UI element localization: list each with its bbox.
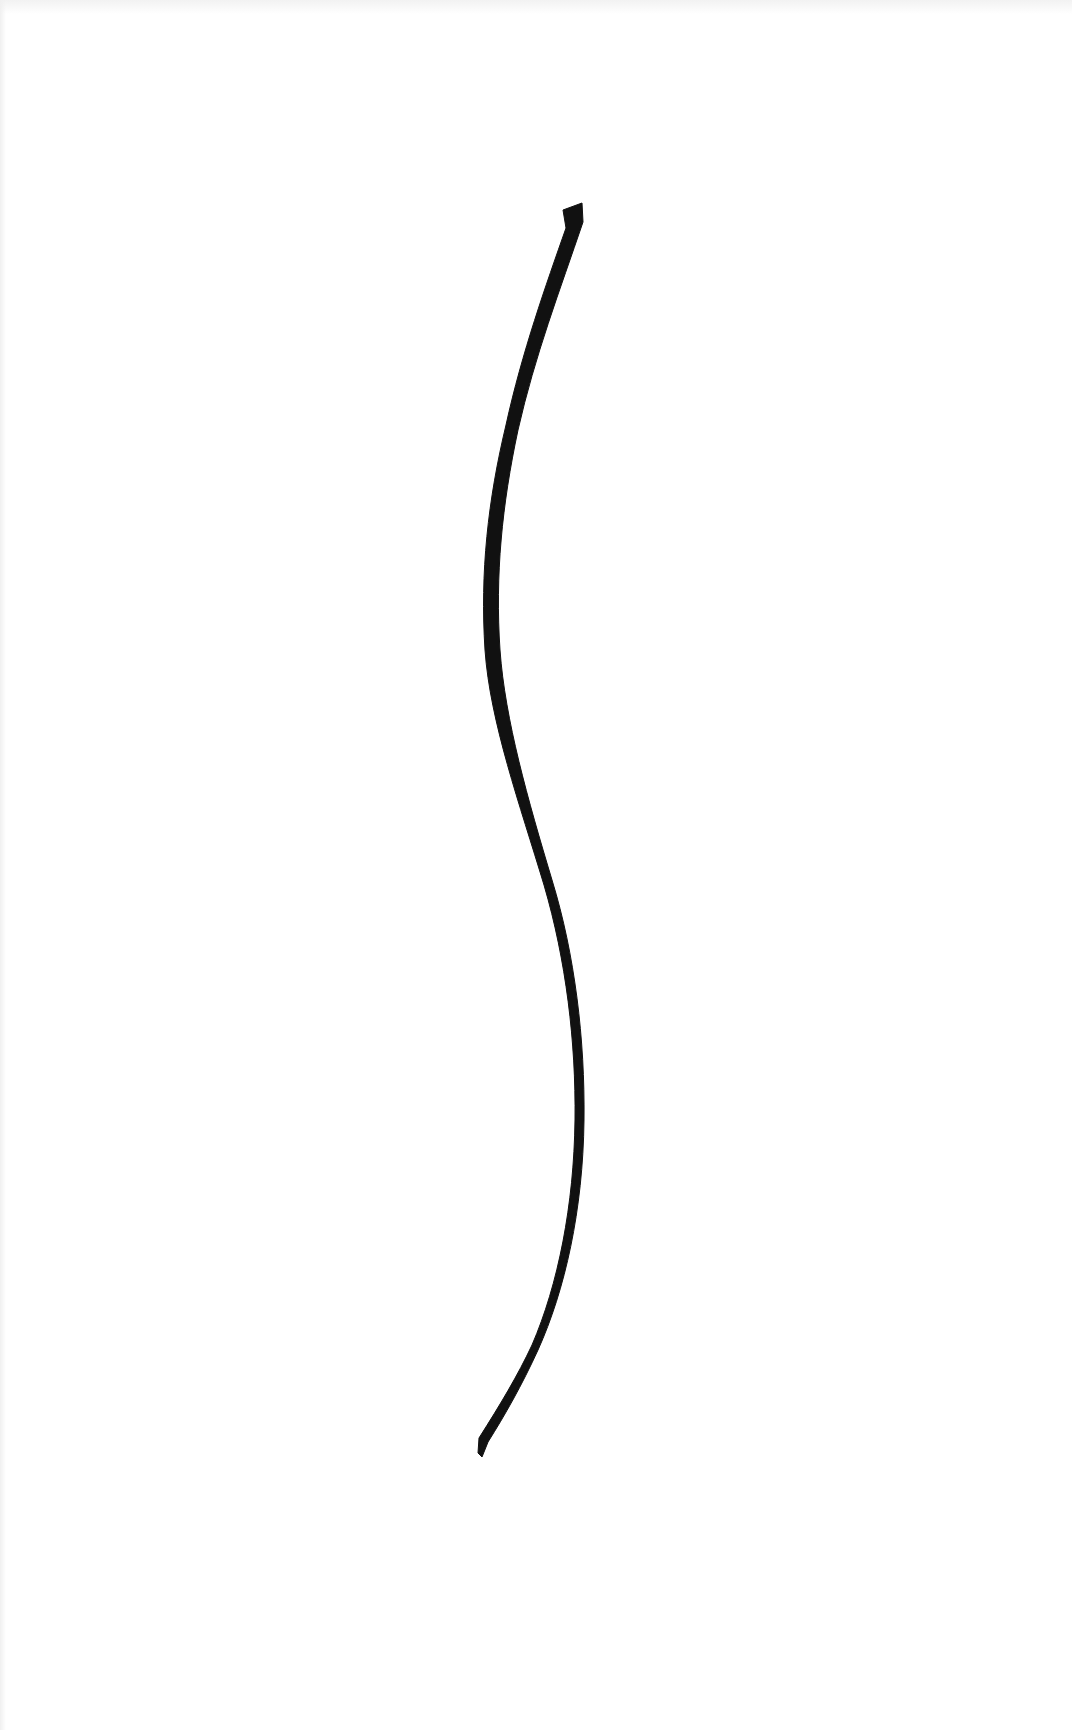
scan-edge-top	[0, 0, 1072, 14]
scan-edge-left	[0, 0, 6, 1730]
brushstroke	[0, 0, 1072, 1730]
artwork-canvas	[0, 0, 1072, 1730]
